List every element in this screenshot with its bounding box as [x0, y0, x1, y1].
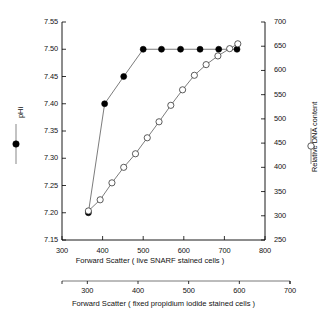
tick-label: 600	[224, 286, 254, 295]
x-axis-caption-secondary: Forward Scatter ( fixed propidium iodide…	[0, 299, 327, 308]
tick-label: 400	[123, 286, 153, 295]
tick-label: 300	[72, 286, 102, 295]
tick-label: 700	[275, 286, 305, 295]
secondary-x-axis-tick-labels: 300400500600700	[0, 0, 327, 326]
tick-label: 500	[174, 286, 204, 295]
chart-container: pHi 7.157.207.257.307.357.407.457.507.55…	[0, 0, 327, 326]
x-axis-caption-primary: Forward Scatter ( live SNARF stained cel…	[0, 256, 300, 265]
